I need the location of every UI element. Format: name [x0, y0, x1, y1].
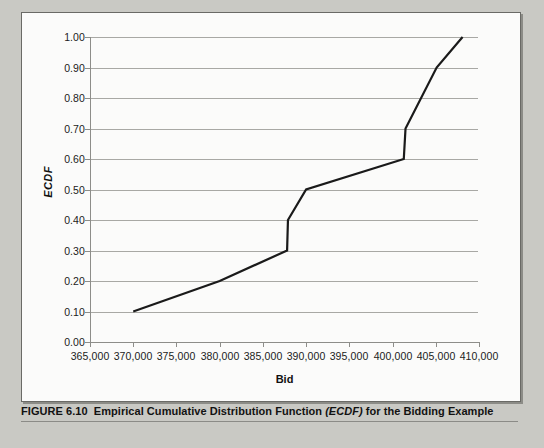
- caption-divider-rule: [21, 421, 518, 422]
- ecdf-series-svg: [22, 13, 522, 403]
- caption-figure-number: FIGURE 6.10: [21, 405, 88, 417]
- figure-caption: FIGURE 6.10 Empirical Cumulative Distrib…: [21, 405, 521, 417]
- figure-page: 0.000.100.200.300.400.500.600.700.800.90…: [0, 0, 544, 448]
- page-top-margin: [0, 0, 544, 10]
- caption-emphasis-ecdf: (ECDF): [325, 405, 363, 417]
- ecdf-series-line: [133, 37, 462, 312]
- figure-panel: 0.000.100.200.300.400.500.600.700.800.90…: [21, 12, 521, 402]
- figure-caption-block: FIGURE 6.10 Empirical Cumulative Distrib…: [21, 405, 521, 422]
- caption-main-text: Empirical Cumulative Distribution Functi…: [94, 405, 322, 417]
- chart-plot-area: 0.000.100.200.300.400.500.600.700.800.90…: [22, 13, 522, 403]
- caption-suffix-text: for the Bidding Example: [366, 405, 494, 417]
